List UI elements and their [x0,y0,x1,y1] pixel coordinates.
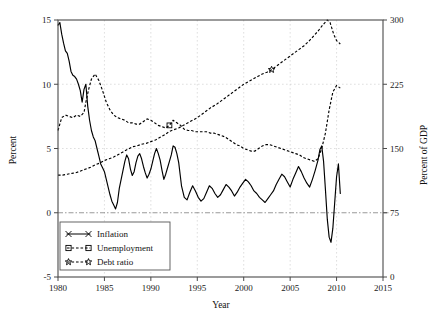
y-tick-label-right: 0 [390,272,395,282]
x-tick-label: 1980 [49,283,68,293]
x-axis-title: Year [212,300,230,310]
y-tick-label-right: 300 [390,15,404,25]
y-tick-label-left: 10 [42,80,52,90]
x-tick-label: 1990 [142,283,161,293]
x-tick-label: 2000 [235,283,254,293]
x-tick-label: 2015 [374,283,393,293]
x-tick-label: 1985 [95,283,114,293]
y-tick-label-left: 5 [47,144,52,154]
x-tick-label: 2005 [281,283,300,293]
y-tick-label-right: 150 [390,144,404,154]
data-series-layer [58,20,340,242]
y-axis-title-right: Percent of GDP [419,125,429,185]
x-tick-label: 1995 [188,283,207,293]
chart-figure: 19801985199019952000200520102015-5051015… [0,0,440,322]
economic-indicators-chart: 19801985199019952000200520102015-5051015… [0,0,440,322]
x-tick-label: 2010 [328,283,347,293]
legend-label: Unemployment [97,243,153,253]
y-axis-title-left: Percent [8,135,18,164]
legend-label: Inflation [97,229,128,239]
y-tick-label-right: 225 [390,80,404,90]
legend-label: Debt ratio [97,257,134,267]
y-tick-label-left: -5 [44,272,52,282]
y-tick-label-left: 15 [42,15,52,25]
series-line-inflation [58,23,340,243]
series-line-debt-ratio [58,20,340,175]
y-tick-label-left: 0 [47,208,52,218]
y-tick-label-right: 75 [390,208,400,218]
chart-legend: InflationUnemploymentDebt ratio [60,222,170,270]
